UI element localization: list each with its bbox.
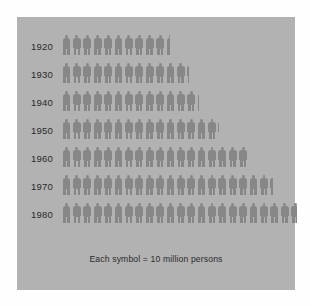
person-figure-icon xyxy=(62,91,71,111)
person-figure-icon xyxy=(207,147,216,167)
person-figure-icon xyxy=(156,63,165,83)
person-figure-icon xyxy=(207,175,216,195)
symbol-track xyxy=(62,89,295,111)
person-figure-icon xyxy=(145,91,154,111)
person-figure-icon xyxy=(72,119,81,139)
pictogram-row: 1930 xyxy=(17,55,295,83)
person-figure-icon xyxy=(145,147,154,167)
symbol-track xyxy=(62,61,295,83)
person-figure-icon xyxy=(218,175,227,195)
person-figure-icon xyxy=(93,175,102,195)
person-figure-icon xyxy=(166,147,175,167)
pictogram-row: 1950 xyxy=(17,111,295,139)
person-figure-icon xyxy=(239,203,248,223)
person-figure-icon xyxy=(104,119,113,139)
row-year-label: 1960 xyxy=(17,154,62,168)
person-figure-icon xyxy=(166,63,175,83)
person-figure-icon xyxy=(83,175,92,195)
person-figure-icon xyxy=(83,147,92,167)
person-figure-icon xyxy=(104,147,113,167)
person-figure-icon xyxy=(114,35,123,55)
person-figure-icon xyxy=(83,119,92,139)
person-figure-icon xyxy=(166,35,171,55)
symbol-track xyxy=(62,173,295,195)
symbol-track xyxy=(62,201,298,223)
person-figure-icon xyxy=(62,175,71,195)
person-figure-icon xyxy=(124,35,133,55)
person-figure-icon xyxy=(197,175,206,195)
person-figure-icon xyxy=(176,119,185,139)
person-figure-icon xyxy=(156,175,165,195)
person-figure-icon xyxy=(114,147,123,167)
person-figure-icon xyxy=(72,147,81,167)
person-figure-icon xyxy=(124,175,133,195)
person-figure-icon xyxy=(135,147,144,167)
row-year-label: 1940 xyxy=(17,98,62,112)
person-figure-icon xyxy=(135,119,144,139)
person-figure-icon xyxy=(218,119,219,139)
person-figure-icon xyxy=(156,119,165,139)
person-figure-icon xyxy=(104,91,113,111)
person-figure-icon xyxy=(249,175,258,195)
person-figure-icon xyxy=(197,203,206,223)
person-figure-icon xyxy=(104,203,113,223)
row-year-label: 1950 xyxy=(17,126,62,140)
person-figure-icon xyxy=(114,63,123,83)
person-figure-icon xyxy=(228,147,237,167)
person-figure-icon xyxy=(114,91,123,111)
person-figure-icon xyxy=(72,91,81,111)
person-figure-icon xyxy=(124,63,133,83)
person-figure-icon xyxy=(270,175,273,195)
person-figure-icon xyxy=(83,203,92,223)
person-figure-icon xyxy=(239,147,247,167)
person-figure-icon xyxy=(166,119,175,139)
person-figure-icon xyxy=(187,203,196,223)
person-figure-icon xyxy=(93,91,102,111)
person-figure-icon xyxy=(145,175,154,195)
person-figure-icon xyxy=(114,175,123,195)
person-figure-icon xyxy=(176,91,185,111)
row-year-label: 1980 xyxy=(17,210,62,224)
person-figure-icon xyxy=(228,175,237,195)
pictogram-row: 1970 xyxy=(17,167,295,195)
pictogram-rows: 1920193019401950196019701980 xyxy=(17,27,295,223)
person-figure-icon xyxy=(207,119,216,139)
person-figure-icon xyxy=(124,119,133,139)
person-figure-icon xyxy=(239,175,248,195)
person-figure-icon xyxy=(176,203,185,223)
person-figure-icon xyxy=(166,175,175,195)
person-figure-icon xyxy=(291,203,297,223)
person-figure-icon xyxy=(228,203,237,223)
person-figure-icon xyxy=(207,203,216,223)
person-figure-icon xyxy=(135,91,144,111)
person-figure-icon xyxy=(93,35,102,55)
person-figure-icon xyxy=(145,203,154,223)
person-figure-icon xyxy=(145,119,154,139)
pictogram-row: 1940 xyxy=(17,83,295,111)
person-figure-icon xyxy=(135,203,144,223)
person-figure-icon xyxy=(62,119,71,139)
chart-caption: Each symbol = 10 million persons xyxy=(17,254,295,264)
symbol-track xyxy=(62,145,295,167)
person-figure-icon xyxy=(62,35,71,55)
row-year-label: 1970 xyxy=(17,182,62,196)
person-figure-icon xyxy=(187,119,196,139)
person-figure-icon xyxy=(249,203,258,223)
pictogram-row: 1960 xyxy=(17,139,295,167)
person-figure-icon xyxy=(114,119,123,139)
person-figure-icon xyxy=(197,147,206,167)
symbol-track xyxy=(62,33,295,55)
person-figure-icon xyxy=(156,91,165,111)
person-figure-icon xyxy=(104,175,113,195)
person-figure-icon xyxy=(187,147,196,167)
symbol-track xyxy=(62,117,295,139)
person-figure-icon xyxy=(197,119,206,139)
pictogram-row: 1920 xyxy=(17,27,295,55)
person-figure-icon xyxy=(62,147,71,167)
person-figure-icon xyxy=(93,63,102,83)
person-figure-icon xyxy=(93,147,102,167)
chart-panel: 1920193019401950196019701980 Each symbol… xyxy=(17,17,295,290)
person-figure-icon xyxy=(145,35,154,55)
person-figure-icon xyxy=(135,63,144,83)
pictogram-row: 1980 xyxy=(17,195,295,223)
